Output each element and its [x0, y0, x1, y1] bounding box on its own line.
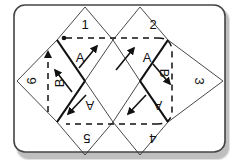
panel-2-number: 2: [149, 17, 156, 32]
panel-5-letter: A: [85, 98, 94, 113]
panel-5-number: 5: [83, 131, 90, 146]
panel-3-letter: B: [157, 69, 172, 78]
panel-3-number: 3: [192, 77, 207, 84]
panel-1-number: 1: [81, 17, 88, 32]
panel-6-letter: B: [52, 79, 67, 88]
panel-2-letter: A: [143, 50, 152, 65]
start-dot: [62, 36, 67, 41]
panel-4-letter: A: [153, 98, 162, 113]
panel-4-number: 4: [149, 131, 156, 146]
panel-1-letter: A: [76, 50, 85, 65]
panel-6-number: 6: [24, 77, 39, 84]
folding-diagram: 1 A 2 A 3 B 4 A 5 A 6 B: [0, 0, 237, 164]
